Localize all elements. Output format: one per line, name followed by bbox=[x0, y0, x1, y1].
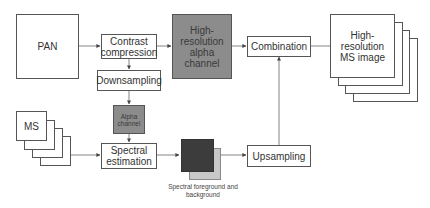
pan-label: PAN bbox=[38, 41, 58, 52]
spectral-estimation-node: Spectral estimation bbox=[101, 143, 157, 169]
alpha-channel-label: Alpha channel bbox=[114, 113, 144, 127]
pan-node: PAN bbox=[16, 14, 79, 79]
spectral-estimation-label: Spectral estimation bbox=[102, 145, 156, 167]
hr-ms-label: High-resolution MS image bbox=[331, 30, 394, 63]
hr-ms-image-node: High-resolution MS image bbox=[330, 14, 395, 78]
ms-label: MS bbox=[24, 121, 39, 132]
contrast-compression-node: Contrast compression bbox=[101, 34, 157, 59]
spectral-foreground-square bbox=[181, 139, 214, 172]
alpha-channel-node: Alpha channel bbox=[113, 105, 145, 134]
upsampling-node: Upsampling bbox=[247, 145, 311, 167]
ms-node: MS bbox=[16, 111, 47, 141]
combination-label: Combination bbox=[251, 41, 307, 52]
hr-alpha-channel-node: High-resolution alpha channel bbox=[172, 14, 232, 79]
contrast-compression-label: Contrast compression bbox=[101, 36, 158, 58]
downsampling-label: Downsampling bbox=[96, 75, 162, 86]
hr-alpha-label: High-resolution alpha channel bbox=[173, 25, 231, 69]
upsampling-label: Upsampling bbox=[253, 151, 306, 162]
combination-node: Combination bbox=[247, 36, 311, 57]
downsampling-node: Downsampling bbox=[97, 70, 161, 91]
spectral-fg-bg-caption: Spectral foreground and background bbox=[163, 183, 243, 199]
